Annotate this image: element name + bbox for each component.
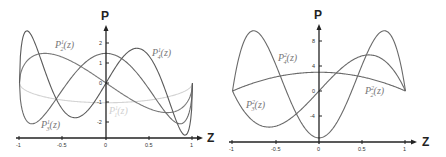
left-y-tick-label: -1: [97, 99, 102, 105]
right-y-ticks: 8 4 0 -4: [310, 38, 322, 119]
label-p31: P13(z): [40, 119, 61, 132]
right-x-tick-label: -0.5: [271, 146, 280, 152]
left-y-ticks: 2 1 0 -1 -2: [97, 40, 109, 125]
right-y-axis-name: P: [314, 8, 322, 22]
right-y-tick-label: 4: [312, 63, 315, 69]
right-chart: Z P -1 -0.5 0 0.5 1 8 4 0 -4 P24(z) P22(…: [229, 8, 429, 152]
right-x-tick-label: 0: [317, 146, 320, 152]
label-p21: P12(z): [54, 39, 75, 52]
left-x-axis-name: Z: [207, 131, 214, 145]
right-x-tick-label: 0.5: [358, 146, 366, 152]
left-x-tick-label: 0.5: [145, 142, 153, 148]
label-p41: P14(z): [151, 47, 172, 60]
right-x-tick-label: 1: [403, 146, 406, 152]
legendre-charts: Z P -1 -0.5 0 0.5 1 2 1 0 -1 -2: [0, 0, 446, 157]
label-p42: P24(z): [277, 52, 298, 65]
label-p22: P22(z): [364, 85, 385, 98]
right-y-axis-arrow-icon: [317, 24, 322, 30]
left-y-tick-label: -2: [97, 119, 102, 125]
right-y-tick-label: -4: [310, 113, 315, 119]
left-y-tick-label: 1: [99, 60, 102, 66]
right-y-tick-label: 0: [312, 88, 315, 94]
left-x-axis-arrow-icon: [197, 136, 203, 141]
left-y-tick-label: 2: [99, 40, 102, 46]
left-chart: Z P -1 -0.5 0 0.5 1 2 1 0 -1 -2: [16, 9, 214, 148]
left-y-axis-name: P: [101, 9, 109, 23]
right-x-axis-arrow-icon: [411, 140, 417, 145]
label-p11: P11(z): [108, 105, 128, 118]
right-x-axis-name: Z: [422, 135, 429, 149]
left-y-tick-label: 0: [99, 80, 102, 86]
left-x-tick-label: 0: [104, 142, 107, 148]
left-x-tick-label: 1: [190, 142, 193, 148]
right-x-tick-label: -1: [229, 146, 234, 152]
right-y-tick-label: 8: [312, 38, 315, 44]
label-p32: P23(z): [245, 99, 266, 112]
left-x-tick-label: -1: [16, 142, 21, 148]
left-y-axis-arrow-icon: [104, 25, 109, 31]
left-x-tick-label: -0.5: [57, 142, 66, 148]
